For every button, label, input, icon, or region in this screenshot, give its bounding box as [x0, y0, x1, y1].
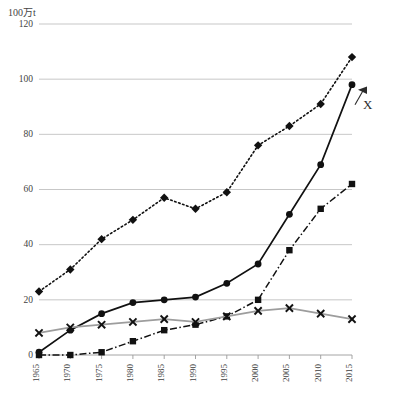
line-chart: 0204060801001201965197019751980198519901… [0, 0, 403, 407]
x-axis-tick-label: 1970 [62, 364, 72, 383]
data-point-marker [285, 122, 293, 130]
data-point-marker [36, 352, 42, 358]
x-axis-tick-label: 2010 [313, 364, 323, 383]
data-point-marker [223, 280, 230, 287]
data-point-marker [318, 206, 324, 212]
x-axis-tick-label: 2005 [281, 364, 291, 383]
x-axis-tick-label: 1975 [94, 364, 104, 383]
y-axis-tick-label: 0 [28, 350, 33, 360]
y-axis-tick-label: 40 [24, 239, 34, 249]
data-point-marker [161, 296, 168, 303]
chart-plot-area: 0204060801001201965197019751980198519901… [0, 0, 403, 407]
x-axis-tick-label: 1965 [31, 364, 41, 383]
data-point-marker [349, 81, 356, 88]
y-axis-tick-label: 100 [19, 74, 34, 84]
data-point-marker [286, 211, 293, 218]
data-point-marker [255, 261, 262, 268]
data-point-marker [130, 299, 137, 306]
data-point-marker [98, 310, 105, 317]
y-axis-tick-label: 60 [24, 184, 34, 194]
x-axis-tick-label: 1980 [125, 364, 135, 383]
x-axis-tick-label: 1985 [156, 364, 166, 383]
data-point-marker [98, 349, 104, 355]
y-axis-tick-label: 120 [19, 19, 34, 29]
y-axis-tick-label: 20 [24, 295, 34, 305]
data-point-marker [191, 205, 199, 213]
x-axis-tick-label: 1990 [188, 364, 198, 383]
data-point-marker [67, 352, 73, 358]
data-point-marker [254, 141, 262, 149]
chart-page: 100万t 0204060801001201965197019751980198… [0, 0, 403, 407]
data-point-marker [161, 327, 167, 333]
annotation-arrow [355, 91, 363, 105]
y-axis-tick-label: 80 [24, 129, 34, 139]
data-point-marker [192, 294, 199, 301]
x-axis-tick-label: 1995 [219, 364, 229, 383]
data-point-marker [348, 53, 356, 61]
x-axis-tick-label: 2015 [344, 364, 354, 383]
data-point-marker [130, 338, 136, 344]
data-point-marker [317, 161, 324, 168]
annotation-label: X [363, 97, 373, 112]
series-solid-circle-line [39, 85, 352, 353]
annotation-arrow-head [358, 86, 367, 94]
data-point-marker [255, 297, 261, 303]
data-point-marker [286, 247, 292, 253]
data-point-marker [349, 181, 355, 187]
series-solid-x-line [39, 308, 352, 333]
series-dotted-diamond-line [39, 57, 352, 291]
x-axis-tick-label: 2000 [250, 364, 260, 383]
